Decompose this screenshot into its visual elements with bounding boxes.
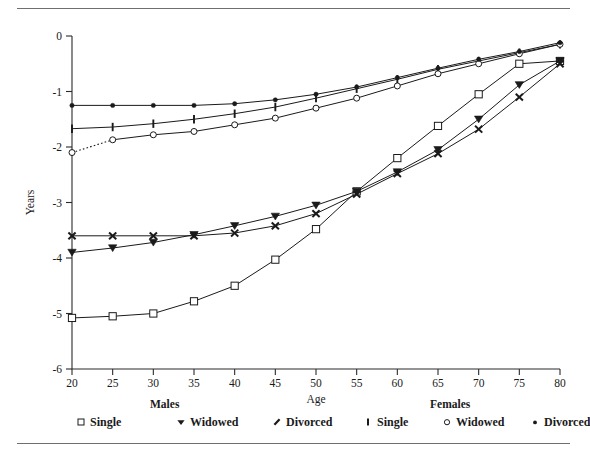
marker-filled-dot [517,49,521,53]
marker-filled-dot [314,92,318,96]
y-tick-label: -3 [52,197,62,209]
marker-open-square [272,256,279,263]
x-tick-label: 25 [107,377,119,389]
y-tick-label: -4 [52,252,62,264]
marker-slash-icon [272,417,282,427]
marker-open-square [434,122,441,129]
series-segment-solid [72,64,560,236]
marker-open-square [475,91,482,98]
legend-item-females-divorced[interactable]: Divorced [530,416,590,428]
y-tick-label: -2 [52,141,62,153]
y-tick-label: -1 [52,86,62,98]
marker-filled-dot [476,57,480,61]
series-males-divorced [68,60,563,239]
marker-filled-down-triangle-icon [176,417,186,427]
series-segment-solid [72,61,560,252]
y-tick-label: -6 [52,363,62,375]
marker-open-circle [272,115,278,121]
marker-open-circle [69,150,75,156]
legend-item-label: Divorced [544,416,590,428]
legend-item-label: Single [377,416,408,428]
marker-open-circle [313,105,319,111]
marker-filled-dot-icon [530,417,540,427]
marker-open-circle [435,71,441,77]
x-tick-label: 70 [473,377,485,389]
marker-open-circle [150,132,156,138]
x-tick-label: 80 [554,377,566,389]
marker-filled-dot [70,103,74,107]
marker-filled-dot [273,98,277,102]
legend-item-males-widowed[interactable]: Widowed [176,416,238,428]
legend: Males Females SingleWidowedDivorcedSingl… [0,398,584,442]
x-tick-label: 35 [188,377,200,389]
marker-filled-dot [192,103,196,107]
legend-item-label: Widowed [190,416,238,428]
legend-group-title-males: Males [150,398,179,410]
legend-item-females-single[interactable]: Single [363,416,408,428]
marker-open-square [394,155,401,162]
x-tick-label: 60 [392,377,404,389]
marker-open-square-icon [76,417,86,427]
marker-filled-dot [151,103,155,107]
marker-open-square [68,314,75,321]
legend-item-males-single[interactable]: Single [76,416,121,428]
x-tick-group: 20253035404550556065707580 [66,369,566,389]
series-group [68,40,564,321]
marker-open-square [516,60,523,67]
marker-down-triangle [312,202,320,209]
legend-item-males-divorced[interactable]: Divorced [272,416,332,428]
legend-item-females-widowed[interactable]: Widowed [442,416,504,428]
x-tick-label: 20 [66,377,78,389]
marker-filled-dot [354,85,358,89]
marker-filled-dot [110,103,114,107]
marker-filled-dot [232,102,236,106]
legend-item-label: Divorced [286,416,332,428]
x-tick-label: 50 [310,377,322,389]
y-tick-label: -5 [52,308,62,320]
x-tick-label: 65 [432,377,444,389]
marker-open-circle [394,83,400,89]
series-segment-solid [72,44,560,128]
marker-down-triangle [68,249,76,256]
axis-titles-group: AgeYears [24,189,326,406]
marker-filled-dot [395,75,399,79]
marker-open-circle [354,95,360,101]
marker-open-square [150,310,157,317]
marker-open-square [231,282,238,289]
legend-item-label: Single [90,416,121,428]
marker-open-circle [110,137,116,143]
x-tick-label: 75 [514,377,526,389]
x-tick-label: 45 [270,377,282,389]
marker-open-square [312,226,319,233]
y-tick-group: 0-1-2-3-4-5-6 [52,30,72,375]
series-females-single [72,40,560,133]
legend-group-title-females: Females [430,398,470,410]
legend-item-label: Widowed [456,416,504,428]
marker-vertical-bar-icon [363,417,373,427]
y-tick-label: 0 [56,30,62,42]
x-tick-label: 30 [148,377,160,389]
marker-filled-dot [436,66,440,70]
series-segment-solid [113,44,560,139]
marker-filled-dot [558,40,562,44]
x-tick-label: 55 [351,377,363,389]
marker-open-circle [191,128,197,134]
marker-open-square [109,313,116,320]
x-tick-label: 40 [229,377,241,389]
marker-open-circle [232,122,238,128]
marker-open-square [190,298,197,305]
y-axis-title: Years [24,189,36,215]
marker-open-circle-icon [442,417,452,427]
series-segment-dotted [72,140,113,153]
